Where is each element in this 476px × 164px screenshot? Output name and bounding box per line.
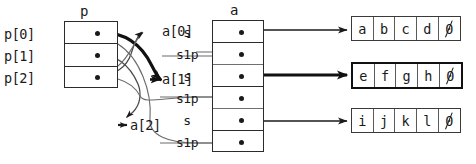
- null-glyph: 0: [445, 21, 453, 37]
- pointer-dot: [239, 52, 244, 57]
- a-field-label-4: s: [164, 113, 210, 128]
- char-cell: j: [374, 109, 396, 132]
- a-field-label-2: s: [164, 69, 210, 84]
- p-row-label-2: p[2]: [4, 70, 64, 86]
- char-cell: h: [418, 64, 440, 87]
- p-row-0: [65, 22, 117, 44]
- a-row-2: [213, 65, 263, 87]
- null-terminator-cell: 0: [440, 64, 461, 87]
- a-row-4: [213, 109, 263, 131]
- null-terminator-cell: 0: [439, 17, 460, 40]
- pointer-dot: [239, 74, 244, 79]
- char-cell: e: [353, 64, 375, 87]
- null-glyph: 0: [445, 113, 453, 129]
- pointer-dot: [239, 96, 244, 101]
- pointer-dot: [95, 53, 100, 58]
- p-row-2: [65, 67, 117, 89]
- char-cell: g: [396, 64, 418, 87]
- a-table-title: a: [230, 3, 238, 17]
- p-row-label-0: p[0]: [4, 26, 64, 42]
- char-cell: a: [352, 17, 374, 40]
- string-box-1: e f g h 0: [351, 62, 463, 89]
- a-row-0: [213, 21, 263, 43]
- char-cell: l: [417, 109, 439, 132]
- a-field-label-5: s1p: [164, 135, 210, 150]
- a-table-field-divider: [212, 20, 213, 152]
- pointer-dot: [239, 118, 244, 123]
- a-row-3: [213, 87, 263, 109]
- char-cell: d: [417, 17, 439, 40]
- char-cell: c: [395, 17, 417, 40]
- a-field-label-1: s1p: [164, 47, 210, 62]
- p-table-title: p: [80, 4, 88, 18]
- char-cell: f: [375, 64, 397, 87]
- pointer-dot: [95, 75, 100, 80]
- pointer-dot: [239, 140, 244, 145]
- string-box-2: i j k l 0: [351, 108, 461, 133]
- a-row-1: [213, 43, 263, 65]
- pointer-dot: [95, 31, 100, 36]
- a-index-label-2: a[2]: [130, 117, 161, 133]
- string-box-0: a b c d 0: [351, 16, 461, 41]
- null-glyph: 0: [446, 68, 454, 84]
- a-field-label-0: s: [164, 25, 210, 40]
- pointer-dot: [239, 30, 244, 35]
- null-terminator-cell: 0: [439, 109, 460, 132]
- p-table: [64, 21, 118, 88]
- a-field-label-3: s1p: [164, 91, 210, 106]
- char-cell: b: [374, 17, 396, 40]
- a-row-5: [213, 131, 263, 153]
- p-row-1: [65, 44, 117, 66]
- diagram-canvas: p p[0] p[1] p[2] a[0] a[1] a[2] a s s1p …: [0, 0, 476, 164]
- char-cell: k: [395, 109, 417, 132]
- char-cell: i: [352, 109, 374, 132]
- p-row-label-1: p[1]: [4, 48, 64, 64]
- a-table: [212, 20, 264, 152]
